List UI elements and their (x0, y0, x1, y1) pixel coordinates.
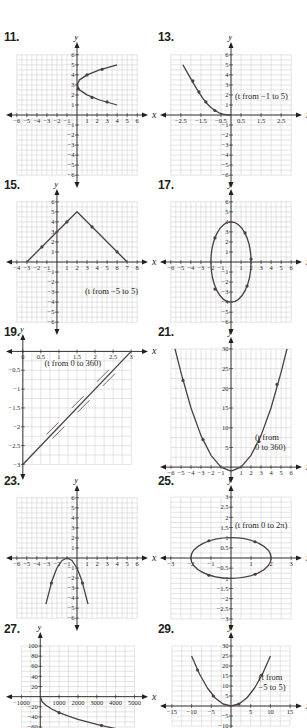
svg-text:15: 15 (222, 672, 229, 679)
svg-text:30: 30 (222, 642, 229, 649)
parameter-range-note: −5 to 5) (259, 682, 286, 692)
graph-29: xy−15−10−551015−10−551015202530(t from−5… (0, 0, 307, 728)
direction-arrows (196, 668, 263, 705)
svg-text:5: 5 (225, 692, 228, 699)
svg-text:−5: −5 (222, 712, 229, 719)
svg-text:10: 10 (222, 682, 229, 689)
svg-text:20: 20 (222, 662, 229, 669)
svg-text:−15: −15 (167, 708, 177, 715)
svg-text:5: 5 (249, 708, 252, 715)
svg-text:10: 10 (267, 708, 274, 715)
svg-text:−5: −5 (208, 708, 215, 715)
svg-text:25: 25 (222, 652, 229, 659)
plot-29: xy−15−10−551015−10−551015202530(t from−5… (160, 621, 307, 728)
x-axis-label: x (305, 700, 307, 711)
parameter-range-note: (t from (259, 672, 283, 682)
svg-text:15: 15 (287, 708, 294, 715)
svg-text:−10: −10 (187, 708, 197, 715)
y-axis-label: y (227, 621, 233, 632)
svg-text:−10: −10 (218, 722, 228, 728)
